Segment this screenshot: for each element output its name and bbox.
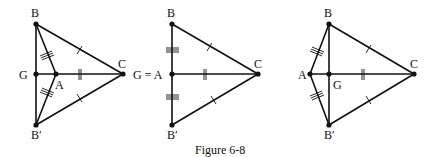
segment-BC — [329, 24, 414, 74]
point-Bp — [33, 122, 38, 127]
tick-BA-1 — [40, 51, 52, 56]
point-C — [120, 71, 125, 76]
point-B — [169, 21, 174, 26]
point-Bp — [326, 122, 331, 127]
tick-ABp-1 — [40, 92, 52, 97]
label-Bp: B′ — [167, 128, 178, 142]
segment-BC — [36, 24, 123, 74]
label-G: G — [19, 68, 28, 82]
label-C: C — [254, 57, 262, 71]
point-B — [33, 21, 38, 26]
segment-BC — [172, 24, 258, 74]
label-G: G — [333, 78, 342, 92]
figure-middle: B C G = A B′ — [133, 6, 262, 142]
figure-left: B C G A B′ — [19, 6, 126, 142]
label-G-equals-A: G = A — [133, 68, 163, 82]
segment-BpC — [329, 74, 414, 125]
segment-BpC — [36, 74, 123, 125]
figure-caption: Figure 6-8 — [195, 143, 245, 157]
tick-ABp-2 — [41, 90, 53, 95]
point-Bp — [169, 122, 174, 127]
tick-BA-2 — [41, 53, 53, 58]
label-B: B — [324, 6, 332, 20]
label-C: C — [118, 57, 126, 71]
point-A — [53, 71, 58, 76]
point-C — [255, 71, 260, 76]
tick-BA-2 — [311, 49, 323, 54]
segment-BA — [310, 24, 329, 74]
label-Bp: B′ — [324, 128, 335, 142]
label-A: A — [298, 68, 307, 82]
point-B — [326, 21, 331, 26]
label-C: C — [410, 57, 418, 71]
point-GA — [169, 71, 174, 76]
point-A — [307, 71, 312, 76]
label-B: B — [31, 6, 39, 20]
point-G — [33, 71, 38, 76]
label-B: B — [167, 6, 175, 20]
figure-6-8: B C G A B′ B C G = A B′ — [0, 0, 438, 157]
point-C — [411, 71, 416, 76]
segment-BpC — [172, 74, 258, 125]
label-A: A — [55, 78, 64, 92]
label-Bp: B′ — [31, 128, 42, 142]
figure-right: B C A G B′ — [298, 6, 418, 142]
tick-BA-3 — [310, 51, 322, 56]
point-G — [326, 71, 331, 76]
segment-ABp — [36, 74, 56, 125]
segment-BA — [36, 24, 56, 74]
